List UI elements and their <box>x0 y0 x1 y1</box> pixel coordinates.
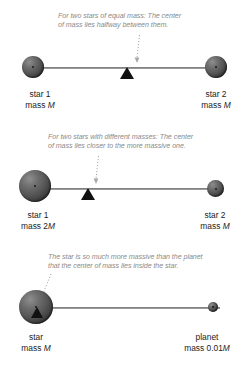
caption-line-1: For two stars with different masses: The… <box>48 133 193 142</box>
sphere-star-2-equal <box>205 56 227 78</box>
sphere-star-2-different <box>207 180 224 197</box>
body-name: star 2 <box>184 89 248 100</box>
caption-line-1: For two stars of equal mass: The center <box>58 12 181 21</box>
label-star-2-equal: star 2 mass M <box>184 89 248 111</box>
body-name: star 2 <box>182 210 248 221</box>
fulcrum-equal-mass <box>120 67 134 79</box>
leader-line-equal-mass <box>126 34 150 66</box>
body-mass: mass M <box>182 221 248 232</box>
body-mass: mass M <box>8 100 72 111</box>
label-star-2-different: star 2 mass M <box>182 210 248 232</box>
body-name: star <box>6 332 66 343</box>
caption-line-2: of mass lies halfway between them. <box>58 21 181 30</box>
body-mass: mass 2M <box>4 221 72 232</box>
label-star-1-equal: star 1 mass M <box>8 89 72 111</box>
fulcrum-different-mass <box>81 188 95 200</box>
caption-line-2: of mass lies closer to the more massive … <box>48 142 193 151</box>
caption-equal-mass: For two stars of equal mass: The center … <box>58 12 181 31</box>
leader-line-different-mass <box>86 155 110 187</box>
caption-star-planet: The star is so much more massive than th… <box>48 253 203 272</box>
label-planet-star-planet: planet mass 0.01M <box>166 332 248 354</box>
body-name: planet <box>166 332 248 343</box>
panel-star-planet: The star is so much more massive than th… <box>0 242 252 365</box>
sphere-star-1-different <box>19 170 51 202</box>
body-name: star 1 <box>8 89 72 100</box>
beam-different-mass <box>40 188 222 190</box>
body-name: star 1 <box>4 210 72 221</box>
caption-different-mass: For two stars with different masses: The… <box>48 133 193 152</box>
label-star-star-planet: star mass M <box>6 332 66 354</box>
caption-line-1: The star is so much more massive than th… <box>48 253 203 262</box>
caption-line-2: that the center of mass lies inside the … <box>48 262 203 271</box>
fulcrum-star-planet <box>31 307 43 318</box>
beam-star-planet <box>40 307 220 309</box>
body-mass: mass M <box>6 343 66 354</box>
panel-different-mass: For two stars with different masses: The… <box>0 122 252 242</box>
sphere-star-1-equal <box>22 56 44 78</box>
body-mass: mass M <box>184 100 248 111</box>
body-mass: mass 0.01M <box>166 343 248 354</box>
label-star-1-different: star 1 mass 2M <box>4 210 72 232</box>
panel-equal-mass: For two stars of equal mass: The center … <box>0 0 252 122</box>
sphere-planet-star-planet <box>208 302 218 312</box>
